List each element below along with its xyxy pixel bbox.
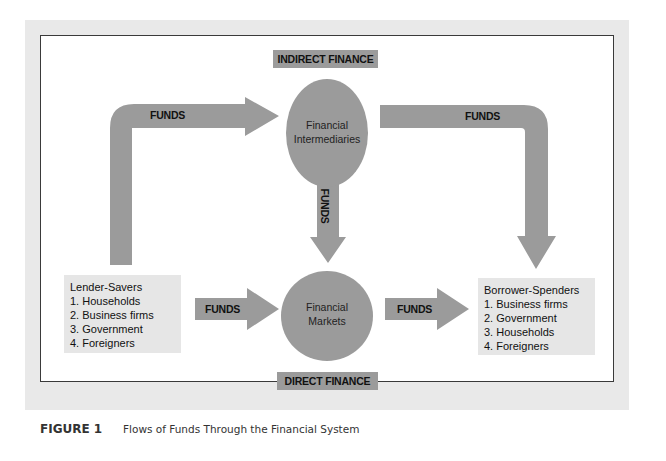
borrower-spenders-item: 2. Government xyxy=(484,311,589,325)
lender-savers-item: 1. Households xyxy=(70,294,175,308)
financial-intermediaries-label: Financial Intermediaries xyxy=(286,118,368,146)
lender-savers-box: Lender-Savers 1. Households 2. Business … xyxy=(64,275,181,353)
funds-label-left: FUNDS xyxy=(205,303,240,315)
figure-number: FIGURE 1 xyxy=(40,422,102,436)
borrower-spenders-item: 1. Business firms xyxy=(484,297,589,311)
indirect-finance-label: INDIRECT FINANCE xyxy=(273,50,378,68)
lender-savers-title: Lender-Savers xyxy=(70,280,175,294)
borrower-spenders-item: 4. Foreigners xyxy=(484,339,589,353)
borrower-spenders-item: 3. Households xyxy=(484,325,589,339)
lender-savers-item: 2. Business firms xyxy=(70,308,175,322)
intermediaries-line2: Intermediaries xyxy=(286,132,368,146)
flow-diagram xyxy=(0,0,666,461)
lender-savers-item: 4. Foreigners xyxy=(70,336,175,350)
intermediaries-line1: Financial xyxy=(286,118,368,132)
lender-savers-item: 3. Government xyxy=(70,322,175,336)
direct-finance-label: DIRECT FINANCE xyxy=(277,372,378,390)
figure-title: Flows of Funds Through the Financial Sys… xyxy=(123,423,359,435)
funds-label-center: FUNDS xyxy=(319,188,331,223)
funds-label-right: FUNDS xyxy=(397,303,432,315)
borrower-spenders-box: Borrower-Spenders 1. Business firms 2. G… xyxy=(478,278,595,355)
arrow-intermediaries-to-borrowers xyxy=(380,105,556,269)
funds-label-top-right: FUNDS xyxy=(465,110,500,122)
markets-line2: Markets xyxy=(286,314,368,328)
funds-label-top-left: FUNDS xyxy=(150,109,185,121)
arrow-lenders-to-intermediaries xyxy=(110,97,279,265)
markets-line1: Financial xyxy=(286,300,368,314)
figure-caption: FIGURE 1 Flows of Funds Through the Fina… xyxy=(40,422,102,436)
borrower-spenders-title: Borrower-Spenders xyxy=(484,283,589,297)
financial-markets-label: Financial Markets xyxy=(286,300,368,328)
